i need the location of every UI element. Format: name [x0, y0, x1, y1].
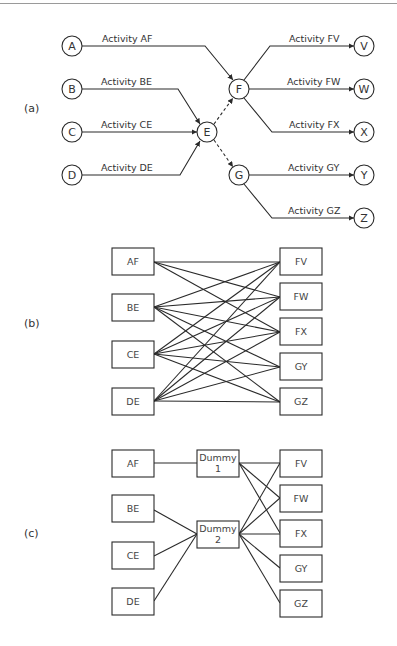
part-b-label: (b) — [24, 317, 40, 330]
c-left-de: DE — [112, 588, 154, 615]
bipartite-edges — [154, 262, 280, 402]
svg-text:Y: Y — [360, 169, 368, 182]
node-g: G — [229, 165, 249, 185]
arrow-af — [82, 46, 233, 80]
svg-text:Z: Z — [360, 212, 368, 225]
arrow-fv — [244, 46, 354, 80]
svg-text:2: 2 — [215, 534, 221, 545]
svg-text:Dummy: Dummy — [199, 452, 237, 463]
c-right-fv: FV — [280, 450, 322, 477]
b-left-ce: CE — [112, 341, 154, 368]
node-f: F — [229, 79, 249, 99]
c-left-ce: CE — [112, 542, 154, 569]
node-z: Z — [354, 208, 374, 228]
label-activity-fv: Activity FV — [289, 33, 340, 44]
svg-text:AF: AF — [127, 458, 139, 469]
node-w: W — [354, 79, 374, 99]
svg-text:FV: FV — [295, 256, 307, 267]
svg-text:DE: DE — [126, 596, 139, 607]
b-right-gz: GZ — [280, 388, 322, 415]
part-a-network: (a) Activity AF Activity BE Activity CE … — [24, 33, 374, 228]
label-activity-fx: Activity FX — [289, 119, 340, 130]
c-dummy-2: Dummy 2 — [197, 521, 239, 548]
part-b-bipartite: (b) AF BE CE — [24, 248, 322, 415]
svg-text:FX: FX — [295, 326, 307, 337]
b-left-de: DE — [112, 388, 154, 415]
part-c-dummy-graph: (c) AF BE CE DE Dummy 1 — [24, 450, 322, 617]
dummy-arrow-eg — [214, 140, 233, 167]
svg-text:GZ: GZ — [294, 396, 308, 407]
label-activity-ce: Activity CE — [101, 119, 152, 130]
svg-text:GY: GY — [295, 563, 308, 574]
svg-text:FW: FW — [294, 493, 309, 504]
svg-text:D: D — [68, 169, 76, 182]
dummy-arrow-ef — [214, 98, 233, 124]
svg-text:V: V — [360, 40, 368, 53]
label-activity-gz: Activity GZ — [288, 205, 341, 216]
label-activity-gy: Activity GY — [288, 162, 339, 173]
node-e: E — [197, 122, 217, 142]
svg-text:X: X — [360, 126, 368, 139]
c-dummy-1: Dummy 1 — [197, 450, 239, 477]
part-a-label: (a) — [24, 102, 39, 115]
b-right-gy: GY — [280, 353, 322, 380]
label-activity-fw: Activity FW — [287, 76, 341, 87]
c-right-gz: GZ — [280, 590, 322, 617]
svg-text:CE: CE — [127, 349, 140, 360]
node-x: X — [354, 122, 374, 142]
node-a: A — [62, 36, 82, 56]
svg-text:C: C — [68, 126, 76, 139]
svg-text:FX: FX — [295, 528, 307, 539]
b-left-be: BE — [112, 294, 154, 321]
part-c-label: (c) — [24, 527, 39, 540]
node-b: B — [62, 79, 82, 99]
node-v: V — [354, 36, 374, 56]
svg-text:A: A — [68, 40, 76, 53]
svg-text:BE: BE — [127, 302, 140, 313]
svg-text:G: G — [235, 169, 244, 182]
node-y: Y — [354, 165, 374, 185]
svg-text:AF: AF — [127, 256, 139, 267]
label-activity-be: Activity BE — [101, 76, 152, 87]
c-right-gy: GY — [280, 555, 322, 582]
diagram-canvas: (a) Activity AF Activity BE Activity CE … — [0, 0, 397, 646]
c-right-fw: FW — [280, 485, 322, 512]
svg-text:CE: CE — [127, 550, 140, 561]
svg-text:B: B — [68, 83, 76, 96]
svg-text:Dummy: Dummy — [199, 523, 237, 534]
svg-text:FV: FV — [295, 458, 307, 469]
b-right-fw: FW — [280, 283, 322, 310]
svg-text:W: W — [359, 83, 370, 96]
svg-text:BE: BE — [127, 503, 140, 514]
svg-text:DE: DE — [126, 396, 139, 407]
label-activity-af: Activity AF — [102, 33, 153, 44]
label-activity-de: Activity DE — [101, 162, 153, 173]
node-c: C — [62, 122, 82, 142]
node-d: D — [62, 165, 82, 185]
svg-text:1: 1 — [215, 463, 221, 474]
c-right-fx: FX — [280, 520, 322, 547]
b-left-af: AF — [112, 248, 154, 275]
b-right-fx: FX — [280, 318, 322, 345]
svg-text:FW: FW — [294, 291, 309, 302]
svg-text:F: F — [236, 83, 242, 96]
svg-text:GY: GY — [295, 361, 308, 372]
b-right-fv: FV — [280, 248, 322, 275]
svg-text:GZ: GZ — [294, 598, 308, 609]
svg-text:E: E — [204, 126, 211, 139]
c-left-af: AF — [112, 450, 154, 477]
c-left-be: BE — [112, 495, 154, 522]
